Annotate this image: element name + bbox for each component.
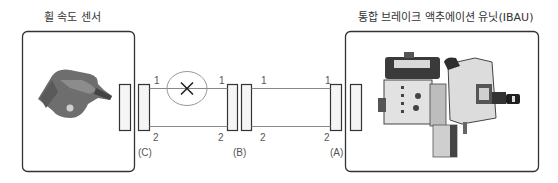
pin-label: 2 — [324, 132, 330, 143]
wiring-diagram — [0, 0, 558, 183]
connector-a-label: (A) — [330, 147, 343, 158]
connector-c-harness-side — [139, 85, 150, 131]
pin-label: 1 — [325, 75, 331, 86]
connector-a-harness-side — [331, 85, 342, 131]
connector-a-ibau-side — [351, 85, 362, 131]
connector-b-right — [242, 85, 252, 131]
wheel-speed-sensor-image — [38, 70, 112, 118]
connector-b-left — [228, 85, 238, 131]
connector-b-label: (B) — [233, 147, 246, 158]
ibau-image — [378, 52, 520, 157]
pin-label: 1 — [154, 75, 160, 86]
pin-label: 1 — [261, 75, 267, 86]
pin-label: 1 — [219, 75, 225, 86]
pin-label: 2 — [153, 132, 159, 143]
pin-label: 2 — [260, 132, 266, 143]
connector-c-sensor-side — [120, 85, 131, 131]
connector-c-label: (C) — [138, 147, 152, 158]
pin-label: 2 — [218, 132, 224, 143]
